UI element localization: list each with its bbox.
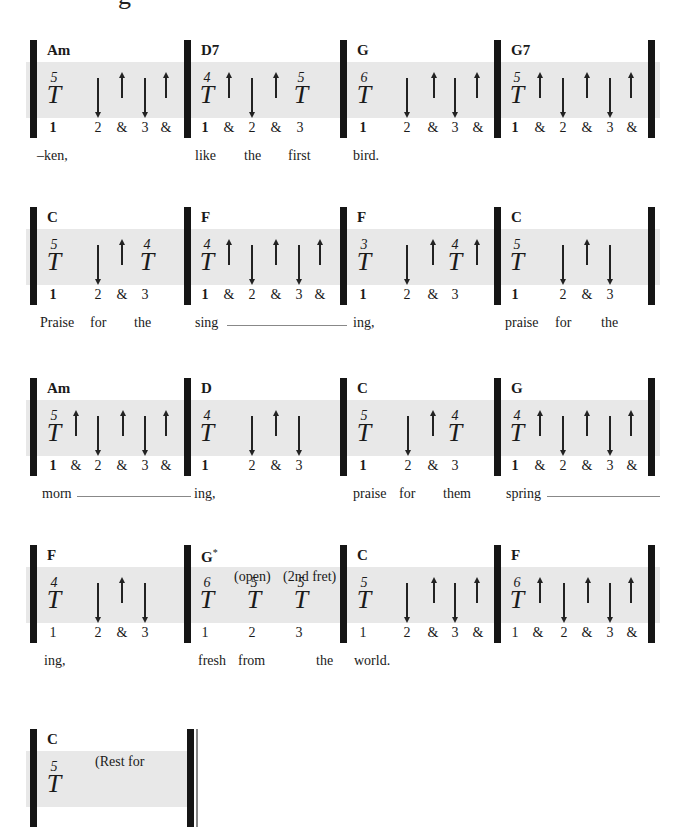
beat-count: 3 [602,287,618,303]
beat-count: & [114,287,130,303]
beat-count: & [114,625,130,641]
beat-count: 2 [90,458,106,474]
beat-count: 2 [555,287,571,303]
down-strum-arrow-icon [562,78,564,116]
chord-label: C [47,731,58,748]
beat-count: & [114,120,130,136]
beat-count: 2 [399,120,415,136]
thumb-symbol: T [195,84,219,106]
bar-line [184,545,191,643]
beat-count: 2 [556,625,572,641]
lyric: world. [354,653,390,669]
down-strum-arrow-icon [97,245,99,283]
chord-name: G [201,549,213,565]
down-strum-arrow-icon [609,583,611,621]
beat-count: 3 [137,287,153,303]
thumb-symbol: T [352,84,376,106]
measure: G 6 T 1 2 & 3 & bird. [347,40,494,190]
beat-count: 1 [197,625,213,641]
up-strum-arrow-icon [586,74,588,98]
down-strum-arrow-icon [251,78,253,116]
measure: G 4 T 1 & 2 & 3 & spring [501,378,648,528]
lyric: spring [506,486,541,502]
beat-count: & [221,120,237,136]
bar-line [184,378,191,476]
measure: C 5 T 4 T 1 2 & 3 praise for them [347,378,494,528]
thumb-symbol: T [42,251,66,273]
lyric: praise [505,315,538,331]
up-strum-arrow-icon [165,74,167,98]
beat-count: 2 [244,458,260,474]
up-strum-arrow-icon [121,579,123,603]
beat-count: & [624,458,640,474]
lyric: from [238,653,265,669]
down-strum-arrow-icon [298,245,300,283]
bar-line [184,207,191,305]
up-strum-arrow-icon [275,74,277,98]
beat-count: 1 [355,287,371,303]
down-strum-arrow-icon [454,78,456,116]
up-strum-arrow-icon [476,241,478,265]
beat-count: 2 [399,625,415,641]
bar-line [184,40,191,138]
beat-count: & [530,625,546,641]
lyric: for [90,315,106,331]
measure: C 5 T (Rest for [37,729,187,831]
beat-count: 1 [355,120,371,136]
down-strum-arrow-icon [144,78,146,116]
measure: C 5 T 4 T 1 2 & 3 Praise for the [37,207,184,357]
lyric-extender-line [227,325,347,326]
thumb-note: 5 T [505,239,529,273]
thumb-note: 6 T [505,577,529,611]
footnote-mark: * [213,547,218,558]
thumb-note: 4 T [42,577,66,611]
thumb-symbol: T [42,422,66,444]
thumb-note: 4 T [195,239,219,273]
up-strum-arrow-icon [228,74,230,98]
measure: C 5 T 1 2 & 3 praise for the [501,207,648,357]
beat-count: 3 [137,120,153,136]
up-strum-arrow-icon [121,241,123,265]
lyric: ing, [194,486,215,502]
measure: F 6 T 1 & 2 & 3 & [501,545,648,695]
beat-count: 3 [292,120,308,136]
down-strum-arrow-icon [97,583,99,621]
beat-count: & [579,287,595,303]
beat-count: 1 [507,120,523,136]
beat-count: 1 [45,287,61,303]
bar-line [494,207,501,305]
thumb-note: 5 T [352,410,376,444]
thumb-note: 6 T [352,72,376,106]
measure: C 5 T 1 2 & 3 & world. [347,545,494,695]
thumb-symbol: T [242,589,266,611]
bar-line [30,729,37,827]
beat-count: 1 [197,458,213,474]
beat-count: 3 [447,287,463,303]
thumb-note: 4 T [135,239,159,273]
thumb-symbol: T [195,251,219,273]
chord-label: G [357,42,369,59]
chord-label: G* [201,547,218,566]
down-strum-arrow-icon [97,416,99,454]
chord-label: D7 [201,42,219,59]
up-strum-arrow-icon [476,74,478,98]
thumb-note: 5 T [42,410,66,444]
lyric-extender-line [547,496,660,497]
beat-count: 2 [555,458,571,474]
measure: G* (open) (2nd fret) 6 T 5 T 5 T 1 2 3 f… [191,545,340,695]
beat-count: 2 [555,120,571,136]
beat-count: 3 [291,458,307,474]
thumb-symbol: T [505,251,529,273]
up-strum-arrow-icon [586,241,588,265]
system-3: Am 5 T 1 & 2 & 3 & morn D 4 T 1 2 & 3 in… [0,378,687,528]
down-strum-arrow-icon [454,583,456,621]
up-strum-arrow-icon [319,241,321,265]
beat-count: 3 [602,120,618,136]
down-strum-arrow-icon [562,245,564,283]
down-strum-arrow-icon [144,416,146,454]
lyric: the [601,315,618,331]
beat-count: 1 [355,625,371,641]
lyric: –ken, [37,148,68,164]
rest-annotation: (Rest for [95,754,144,770]
beat-count: 3 [137,625,153,641]
